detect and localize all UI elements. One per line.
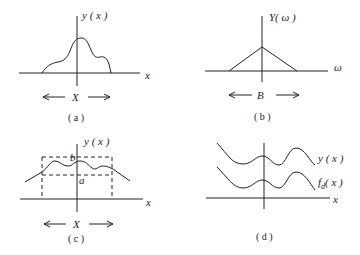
span-label: X bbox=[71, 91, 80, 103]
x-axis-label: ω bbox=[334, 61, 342, 73]
x-axis-label: x bbox=[144, 69, 150, 81]
panel-a: y ( x ) x X ( a ) bbox=[19, 9, 150, 124]
bandwidth-label: B bbox=[257, 89, 264, 101]
caption-d: ( d ) bbox=[256, 231, 273, 243]
caption-b: ( b ) bbox=[254, 111, 271, 123]
caption-c: ( c ) bbox=[68, 233, 84, 245]
curve-fd-label: fd( x ) bbox=[318, 176, 343, 191]
curve-fd bbox=[217, 167, 315, 190]
y-axis-label: Y( ω ) bbox=[269, 11, 296, 24]
curve-y bbox=[217, 143, 315, 165]
span-label: X bbox=[72, 218, 81, 230]
y-axis-label: y ( x ) bbox=[83, 135, 110, 148]
curve-y-label: y ( x ) bbox=[317, 152, 344, 165]
lower-bound-label: a bbox=[79, 174, 85, 186]
upper-bound-label: b bbox=[70, 151, 76, 163]
y-axis-label: y ( x ) bbox=[81, 9, 108, 22]
x-axis-label: x bbox=[145, 196, 151, 208]
panel-d: y ( x ) fd( x ) x ( d ) bbox=[206, 143, 344, 243]
span-arrows bbox=[229, 92, 299, 98]
x-axis-label: x bbox=[332, 193, 338, 205]
panel-b: Y( ω ) ω B ( b ) bbox=[205, 11, 342, 123]
figure-canvas: y ( x ) x X ( a ) Y( ω ) ω B ( b ) bbox=[0, 0, 360, 255]
panel-c: b a y ( x ) x X ( c ) bbox=[20, 135, 151, 245]
triangle-spectrum bbox=[229, 47, 297, 71]
caption-a: ( a ) bbox=[68, 112, 84, 124]
